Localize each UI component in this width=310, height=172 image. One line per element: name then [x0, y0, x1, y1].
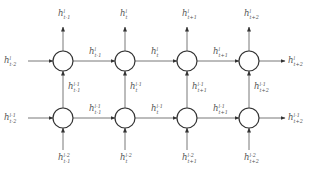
rnn-cell-node — [177, 51, 197, 71]
recurrent-label: hlt-1 — [89, 46, 101, 58]
input-label: hl-2t+1 — [182, 152, 197, 164]
rnn-cell-node — [239, 108, 259, 128]
input-label: hl-2t+2 — [244, 152, 259, 164]
output-label: hlt-1 — [58, 8, 70, 20]
row-output-label: hl-1t+2 — [288, 112, 303, 124]
recurrent-label: hl-1t+1 — [213, 103, 228, 115]
rnn-cell-node — [115, 51, 135, 71]
output-label: hlt+2 — [244, 8, 259, 20]
rnn-cell-node — [239, 51, 259, 71]
layer-label: hl-1t+1 — [192, 81, 207, 93]
layer-label: hl-1t — [130, 81, 142, 93]
row-input-label: hlt-2 — [4, 55, 16, 67]
layer-label: hl-1t+2 — [254, 81, 269, 93]
recurrent-label: hlt+1 — [213, 46, 228, 58]
recurrent-label: hlt — [151, 46, 160, 58]
nodes — [53, 51, 259, 128]
rnn-cell-node — [53, 51, 73, 71]
recurrent-label: hl-1t-1 — [89, 103, 101, 115]
labels: hlt-1hl-1t-1hl-2t-1hlthl-1thl-2thlt+1hl-… — [4, 8, 303, 164]
input-label: hl-2t — [120, 152, 132, 164]
diagram-svg: hlt-1hl-1t-1hl-2t-1hlthl-1thl-2thlt+1hl-… — [0, 0, 310, 172]
output-label: hlt+1 — [182, 8, 197, 20]
rnn-cell-node — [53, 108, 73, 128]
rnn-diagram: hlt-1hl-1t-1hl-2t-1hlthl-1thl-2thlt+1hl-… — [0, 0, 310, 172]
rnn-cell-node — [177, 108, 197, 128]
input-label: hl-2t-1 — [58, 152, 70, 164]
output-label: hlt — [120, 8, 129, 20]
recurrent-label: hl-1t — [151, 103, 163, 115]
rnn-cell-node — [115, 108, 135, 128]
layer-label: hl-1t-1 — [68, 81, 80, 93]
row-input-label: hl-1t-2 — [4, 112, 16, 124]
row-output-label: hlt+2 — [288, 55, 303, 67]
